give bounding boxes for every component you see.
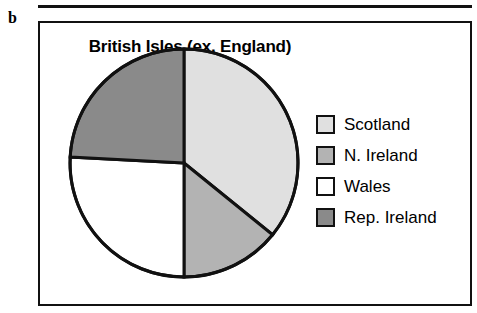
legend-swatch-n-ireland — [316, 146, 335, 165]
legend-item-rep-ireland[interactable]: Rep. Ireland — [316, 202, 466, 233]
previous-panel-bottom-border — [38, 0, 472, 8]
pie-chart — [64, 43, 304, 283]
legend-swatch-rep-ireland — [316, 208, 335, 227]
chart-panel: British Isles (ex. England) Scotland N. … — [38, 21, 472, 306]
pie-chart-svg — [64, 43, 304, 283]
panel-label: b — [8, 10, 17, 26]
pie-slice-rep-ireland[interactable] — [70, 49, 184, 163]
legend-item-n-ireland[interactable]: N. Ireland — [316, 140, 466, 171]
legend-label-n-ireland: N. Ireland — [344, 147, 418, 164]
chart-legend: Scotland N. Ireland Wales Rep. Ireland — [316, 109, 466, 233]
legend-label-wales: Wales — [344, 178, 391, 195]
legend-item-wales[interactable]: Wales — [316, 171, 466, 202]
legend-swatch-wales — [316, 177, 335, 196]
legend-label-rep-ireland: Rep. Ireland — [344, 209, 437, 226]
legend-swatch-scotland — [316, 115, 335, 134]
pie-slice-wales[interactable] — [70, 157, 184, 277]
legend-item-scotland[interactable]: Scotland — [316, 109, 466, 140]
legend-label-scotland: Scotland — [344, 116, 410, 133]
